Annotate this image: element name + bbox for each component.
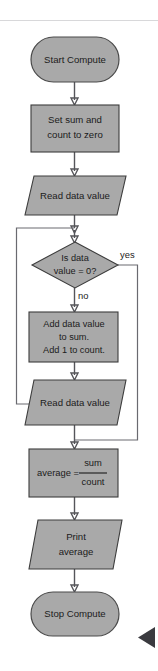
connector-decision-no-to-accumulate xyxy=(71,288,78,312)
read-first-label: Read data value xyxy=(40,190,110,201)
average-denominator-label: count xyxy=(82,476,105,487)
node-read-first[interactable]: Read data value xyxy=(25,176,126,215)
play-cursor-marker-icon[interactable] xyxy=(138,627,155,648)
connector-accumulate-to-read-next xyxy=(71,362,78,380)
connector-init-to-read-first xyxy=(71,152,78,176)
flowchart-page: Start Compute Set sum and count to zero … xyxy=(0,0,158,671)
node-print[interactable]: Print average xyxy=(29,520,122,569)
node-accumulate[interactable]: Add data value to sum. Add 1 to count. xyxy=(29,312,118,362)
connector-average-to-print xyxy=(71,497,78,520)
init-label-line2: count to zero xyxy=(47,129,102,140)
print-label-line1: Print xyxy=(66,531,86,542)
branch-label-no: no xyxy=(78,290,88,301)
branch-label-yes: yes xyxy=(120,249,135,260)
print-label-line2: average xyxy=(59,546,94,557)
node-start[interactable]: Start Compute xyxy=(31,37,119,82)
flowchart-canvas: Start Compute Set sum and count to zero … xyxy=(0,0,158,671)
init-label-line1: Set sum and xyxy=(48,114,102,125)
decision-label-line2: value = 0? xyxy=(54,266,97,276)
node-stop[interactable]: Stop Compute xyxy=(31,592,119,636)
average-numerator-label: sum xyxy=(84,457,102,468)
decision-label-line1: Is data xyxy=(61,253,89,263)
connector-start-to-init xyxy=(71,82,78,105)
connector-print-to-stop xyxy=(71,569,78,592)
start-label: Start Compute xyxy=(44,54,106,65)
node-decision[interactable]: Is data value = 0? xyxy=(32,242,118,288)
accumulate-label-line2: to sum. xyxy=(59,332,89,342)
node-average[interactable]: average = sum count xyxy=(29,449,118,497)
average-lhs-label: average = xyxy=(37,467,79,478)
accumulate-label-line1: Add data value xyxy=(43,319,104,329)
print-io-shape xyxy=(29,520,122,569)
node-init[interactable]: Set sum and count to zero xyxy=(31,105,119,152)
stop-label: Stop Compute xyxy=(44,608,105,619)
decision-diamond-shape xyxy=(32,242,118,288)
accumulate-label-line3: Add 1 to count. xyxy=(43,345,105,355)
node-read-next[interactable]: Read data value xyxy=(25,380,126,425)
connector-read-next-to-average xyxy=(71,425,78,449)
connector-merge-to-decision xyxy=(71,230,78,243)
read-next-label: Read data value xyxy=(40,397,110,408)
